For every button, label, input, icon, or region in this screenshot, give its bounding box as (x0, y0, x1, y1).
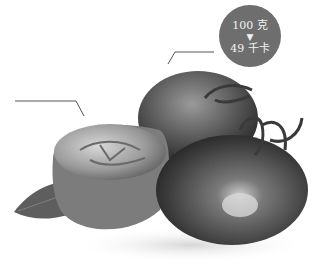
calories-label: 49 千卡 (219, 42, 281, 55)
nutrition-badge: 100 克 ▼ 49 千卡 (219, 5, 281, 67)
callout-line-left (15, 101, 84, 116)
weight-label: 100 克 (219, 19, 281, 32)
whole-tomato-front (156, 135, 308, 245)
tomato-nutrition-figure: 100 克 ▼ 49 千卡 (0, 0, 319, 272)
callout-line-top (168, 52, 214, 64)
down-arrow-icon: ▼ (219, 32, 281, 42)
